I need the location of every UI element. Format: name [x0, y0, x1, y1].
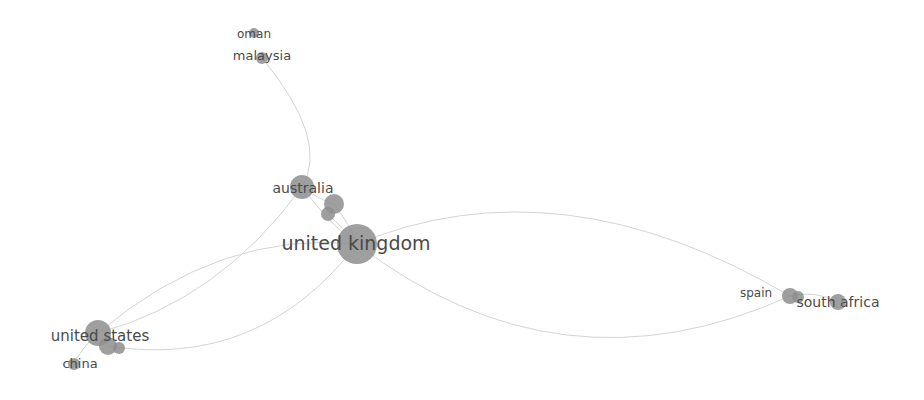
network-edge — [98, 242, 357, 333]
network-canvas: omanmalaysiaaustraliaunited kingdomunite… — [0, 0, 924, 400]
node-label-united-kingdom: united kingdom — [281, 232, 430, 254]
network-edge — [262, 58, 310, 187]
network-edge — [98, 187, 302, 333]
label-layer: omanmalaysiaaustraliaunited kingdomunite… — [51, 27, 880, 371]
node-label-united-states: united states — [51, 327, 150, 345]
node-label-australia: australia — [273, 180, 334, 196]
network-edge — [357, 244, 790, 338]
node-australia-sub2[interactable] — [321, 207, 335, 221]
node-label-spain: spain — [740, 286, 772, 300]
node-label-south-africa: south africa — [797, 294, 880, 310]
node-label-malaysia: malaysia — [233, 48, 291, 63]
node-label-oman: oman — [237, 27, 271, 41]
edge-layer — [74, 58, 838, 364]
node-label-china: china — [62, 356, 97, 371]
